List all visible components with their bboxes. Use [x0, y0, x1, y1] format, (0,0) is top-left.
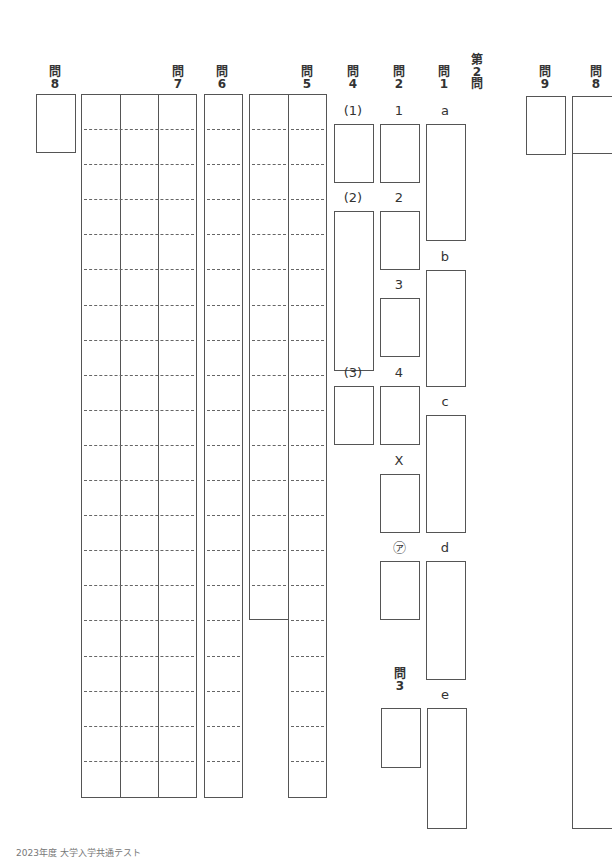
- grid-row-line: [291, 445, 324, 446]
- grid-row-line: [207, 445, 240, 446]
- label-q2-a-circled: ㋐: [379, 541, 419, 555]
- answer-grid-q5-col1[interactable]: [249, 94, 289, 620]
- grid-row-line: [84, 691, 194, 692]
- grid-row-line: [291, 656, 324, 657]
- label-q2-3: 3: [379, 278, 419, 292]
- grid-row-line: [207, 656, 240, 657]
- grid-row-line: [84, 726, 194, 727]
- grid-row-line: [207, 199, 240, 200]
- grid-row-line: [291, 129, 324, 130]
- answer-box-q3[interactable]: [381, 708, 421, 768]
- header-q7: 問 7: [163, 66, 193, 90]
- answer-box-q2-4[interactable]: [380, 386, 420, 445]
- grid-row-line: [207, 726, 240, 727]
- answer-box-q1-d[interactable]: [426, 561, 466, 680]
- answer-box-q2-2[interactable]: [380, 211, 420, 270]
- header-q8-left: 問 8: [40, 66, 70, 90]
- header-number: 6: [207, 78, 237, 90]
- grid-row-line: [207, 375, 240, 376]
- grid-row-line: [291, 620, 324, 621]
- grid-row-line: [84, 620, 194, 621]
- grid-row-line: [252, 375, 286, 376]
- grid-row-line: [291, 691, 324, 692]
- answer-box-q1-e[interactable]: [427, 708, 467, 829]
- answer-box-q2-a-circled[interactable]: [380, 561, 420, 620]
- page-footer: 2023年度 大学入学共通テスト: [16, 846, 141, 859]
- grid-row-line: [84, 129, 194, 130]
- header-q3: 問 3: [385, 668, 415, 692]
- answer-box-q1-a[interactable]: [426, 124, 466, 241]
- grid-row-line: [291, 375, 324, 376]
- grid-row-line: [207, 480, 240, 481]
- header-q1: 問 1: [429, 66, 459, 90]
- answer-box-q8-right[interactable]: [572, 96, 612, 154]
- grid-row-line: [207, 761, 240, 762]
- grid-row-line: [291, 585, 324, 586]
- answer-column-right[interactable]: [572, 154, 612, 829]
- answer-box-q4-3[interactable]: [334, 386, 374, 445]
- header-number: 7: [163, 78, 193, 90]
- answer-box-q8[interactable]: [36, 94, 76, 153]
- header-q6: 問 6: [207, 66, 237, 90]
- answer-box-q2-3[interactable]: [380, 298, 420, 357]
- grid-row-line: [252, 480, 286, 481]
- header-q2: 問 2: [384, 66, 414, 90]
- grid-row-line: [207, 620, 240, 621]
- grid-row-line: [252, 234, 286, 235]
- grid-row-line: [252, 585, 286, 586]
- grid-row-line: [84, 515, 194, 516]
- label-q2-2: 2: [379, 191, 419, 205]
- answer-box-q9[interactable]: [526, 96, 566, 155]
- grid-row-line: [291, 761, 324, 762]
- grid-row-line: [207, 585, 240, 586]
- grid-row-line: [252, 340, 286, 341]
- grid-row-line: [291, 234, 324, 235]
- grid-row-line: [291, 550, 324, 551]
- header-q8-right: 問 8: [581, 66, 611, 90]
- answer-box-q2-x[interactable]: [380, 474, 420, 533]
- header-number: 3: [385, 680, 415, 692]
- label-q4-3: (3): [333, 366, 373, 380]
- header-number: 9: [530, 78, 560, 90]
- header-number: 4: [338, 78, 368, 90]
- grid-row-line: [291, 480, 324, 481]
- grid-row-line: [207, 234, 240, 235]
- grid-row-line: [291, 515, 324, 516]
- answer-box-q2-1[interactable]: [380, 124, 420, 183]
- grid-row-line: [207, 410, 240, 411]
- header-number: 8: [581, 78, 611, 90]
- grid-row-line: [252, 129, 286, 130]
- label-q1-e: e: [425, 688, 465, 702]
- label-q2-x: X: [379, 454, 419, 468]
- grid-row-line: [207, 515, 240, 516]
- grid-row-line: [252, 515, 286, 516]
- grid-row-line: [207, 305, 240, 306]
- grid-row-line: [252, 305, 286, 306]
- answer-box-q4-1[interactable]: [334, 124, 374, 183]
- grid-row-line: [291, 199, 324, 200]
- answer-box-q1-b[interactable]: [426, 270, 466, 387]
- grid-row-line: [84, 164, 194, 165]
- label-q4-2: (2): [333, 191, 373, 205]
- answer-box-q1-c[interactable]: [426, 415, 466, 533]
- grid-row-line: [291, 305, 324, 306]
- grid-row-line: [291, 164, 324, 165]
- grid-row-line: [252, 269, 286, 270]
- label-q2-1: 1: [379, 104, 419, 118]
- label-q2-4: 4: [379, 366, 419, 380]
- grid-row-line: [252, 410, 286, 411]
- grid-row-line: [207, 129, 240, 130]
- grid-row-line: [84, 550, 194, 551]
- header-q4: 問 4: [338, 66, 368, 90]
- grid-row-line: [252, 199, 286, 200]
- label-q4-1: (1): [333, 104, 373, 118]
- grid-row-line: [84, 340, 194, 341]
- label-q1-b: b: [425, 250, 465, 264]
- label-q1-a: a: [425, 104, 465, 118]
- grid-row-line: [84, 585, 194, 586]
- answer-box-q4-2[interactable]: [334, 211, 374, 371]
- grid-row-line: [84, 234, 194, 235]
- header-number: 8: [40, 78, 70, 90]
- grid-row-line: [291, 726, 324, 727]
- grid-row-line: [84, 761, 194, 762]
